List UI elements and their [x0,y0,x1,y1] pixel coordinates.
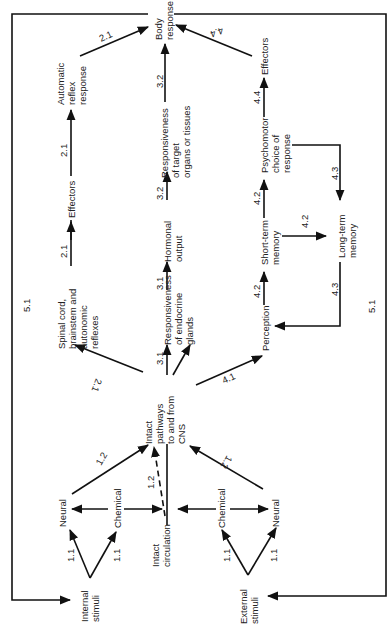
svg-text:CNS: CNS [176,424,187,444]
svg-text:Effectors: Effectors [259,37,270,75]
svg-text:pathways: pathways [154,404,165,444]
node-long-term-memory: Long-term memory [336,215,358,258]
svg-text:2.1: 2.1 [90,377,105,393]
svg-text:Long-term: Long-term [336,215,347,258]
node-neural-internal: Neural [57,499,68,527]
svg-text:Intact: Intact [143,420,154,444]
svg-text:memory: memory [347,223,358,258]
svg-text:response: response [164,1,175,40]
svg-text:autonomic: autonomic [78,305,89,349]
svg-text:2.1: 2.1 [58,144,69,157]
svg-text:Body: Body [153,18,164,40]
svg-text:External: External [238,589,249,624]
svg-text:Automatic: Automatic [55,63,66,105]
node-effectors-reflex: Effectors [66,180,77,218]
stimulus-response-diagram: Internal stimuli External stimuli Neural… [0,0,391,627]
svg-text:Neural: Neural [57,499,68,527]
svg-text:1.1: 1.1 [65,549,76,562]
svg-text:Chemical: Chemical [112,488,123,528]
svg-text:Intact: Intact [150,543,161,567]
svg-text:4.2: 4.2 [251,285,262,298]
svg-text:1.2: 1.2 [145,476,156,489]
svg-text:Responsiveness: Responsiveness [159,108,170,178]
svg-text:stimuli: stimuli [90,595,101,622]
node-intact-circulation: Intact circulation [150,524,172,567]
svg-text:4.4: 4.4 [251,91,262,104]
node-effectors-psychomotor: Effectors [259,37,270,75]
svg-text:of endocrine: of endocrine [173,293,184,345]
svg-text:Chemical: Chemical [216,488,227,528]
node-body-response: Body response [153,1,175,40]
svg-text:to and from: to and from [165,396,176,444]
svg-text:of target: of target [170,143,181,178]
node-responsiveness-target: Responsiveness of target organs or tissu… [159,105,192,178]
svg-text:1.1: 1.1 [111,549,122,562]
node-automatic-reflex: Automatic reflex response [55,63,88,105]
svg-text:4.2: 4.2 [251,192,262,205]
svg-text:1.2: 1.2 [93,450,109,467]
edges-cognitive [176,25,340,326]
svg-text:5.1: 5.1 [21,299,32,312]
svg-text:2.1: 2.1 [97,28,114,44]
svg-text:Neural: Neural [270,499,281,527]
node-short-term-memory: Short-term memory [259,220,281,265]
node-spinal-cord: Spinal cord, brainstem and autonomic ref… [56,289,100,349]
svg-text:4.3: 4.3 [329,283,340,296]
svg-text:circulation: circulation [161,524,172,567]
svg-text:1.1: 1.1 [221,549,232,562]
node-chemical-external: Chemical [216,488,227,528]
svg-text:5.1: 5.1 [366,300,377,313]
svg-text:Spinal cord,: Spinal cord, [56,299,67,349]
svg-text:4.2: 4.2 [299,215,310,228]
node-responsiveness-endocrine: Responsiveness of endocrine glands [162,275,195,345]
svg-text:Psychomotor: Psychomotor [259,118,270,173]
svg-text:4.4: 4.4 [209,25,225,40]
svg-text:4.3: 4.3 [329,167,340,180]
svg-text:Internal: Internal [79,590,90,622]
node-hormonal-output: Hormonal output [162,221,184,262]
svg-text:Effectors: Effectors [66,180,77,218]
svg-text:1.2: 1.2 [219,454,235,471]
node-psychomotor: Psychomotor choice of response [259,118,292,173]
svg-text:choice of: choice of [270,135,281,173]
svg-text:reflexes: reflexes [89,315,100,349]
svg-text:reflex: reflex [66,82,77,105]
svg-text:Hormonal: Hormonal [162,221,173,262]
svg-text:glands: glands [184,317,195,345]
svg-text:3.2: 3.2 [154,187,165,200]
svg-text:3.1: 3.1 [154,277,165,290]
svg-text:stimuli: stimuli [249,597,260,624]
svg-text:output: output [173,235,184,262]
node-chemical-internal: Chemical [112,488,123,528]
svg-text:organs or tissues: organs or tissues [181,105,192,178]
node-neural-external: Neural [270,499,281,527]
node-perception: Perception [260,306,271,351]
node-external-stimuli: External stimuli [238,589,260,624]
svg-text:Perception: Perception [260,306,271,351]
svg-text:response: response [281,134,292,173]
svg-text:memory: memory [270,230,281,265]
svg-text:3.1: 3.1 [154,352,165,365]
svg-text:3.2: 3.2 [154,75,165,88]
svg-text:response: response [77,66,88,105]
node-internal-stimuli: Internal stimuli [79,590,101,622]
node-intact-pathways: Intact pathways to and from CNS [143,396,187,444]
svg-text:2.1: 2.1 [58,245,69,258]
svg-text:brainstem and: brainstem and [67,289,78,349]
svg-text:Short-term: Short-term [259,220,270,265]
edges-reflex [71,27,148,266]
svg-text:1.1: 1.1 [268,549,279,562]
